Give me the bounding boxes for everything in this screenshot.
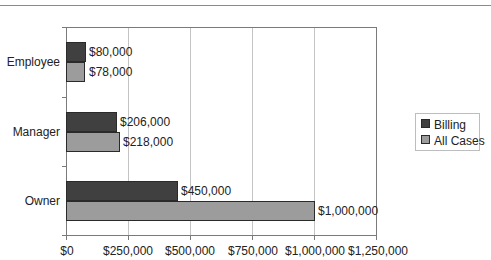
x-tick <box>314 236 315 240</box>
bar-employee-billing <box>66 42 86 62</box>
x-tick <box>376 236 377 240</box>
category-label-owner: Owner <box>0 194 60 208</box>
x-tick-label: $750,000 <box>228 244 278 258</box>
x-tick-label: $0 <box>60 244 73 258</box>
bar-manager-billing <box>66 112 117 132</box>
legend-item-allcases: All Cases <box>421 134 485 148</box>
legend-label-billing: Billing <box>434 118 466 132</box>
legend-swatch-billing <box>421 119 430 128</box>
x-tick <box>128 236 129 240</box>
x-tick-label: $1,000,000 <box>285 244 345 258</box>
x-tick-label: $250,000 <box>103 244 153 258</box>
x-tick-label: $500,000 <box>165 244 215 258</box>
y-tick <box>62 166 66 167</box>
data-label-manager-allcases: $218,000 <box>123 135 173 149</box>
data-label-owner-allcases: $1,000,000 <box>318 204 378 218</box>
bar-employee-allcases <box>66 62 85 82</box>
data-label-employee-allcases: $78,000 <box>89 65 132 79</box>
bar-owner-billing <box>66 181 178 201</box>
x-tick <box>66 236 67 240</box>
category-label-manager: Manager <box>0 125 60 139</box>
y-tick <box>62 235 66 236</box>
data-label-owner-billing: $450,000 <box>181 184 231 198</box>
y-tick <box>62 97 66 98</box>
category-label-employee: Employee <box>0 55 60 69</box>
legend-item-billing: Billing <box>421 118 466 132</box>
legend-swatch-allcases <box>421 135 430 144</box>
x-tick <box>190 236 191 240</box>
x-tick-label: $1,250,000 <box>348 244 408 258</box>
x-tick <box>252 236 253 240</box>
data-label-manager-billing: $206,000 <box>120 115 170 129</box>
legend: Billing All Cases <box>415 113 480 151</box>
data-label-employee-billing: $80,000 <box>89 45 132 59</box>
bar-owner-allcases <box>66 201 315 221</box>
legend-label-allcases: All Cases <box>434 134 485 148</box>
y-tick <box>62 27 66 28</box>
top-divider <box>0 5 491 6</box>
bar-manager-allcases <box>66 132 120 152</box>
